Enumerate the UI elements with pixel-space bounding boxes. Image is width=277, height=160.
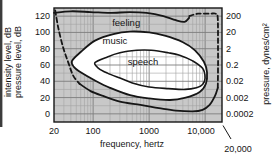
y-right-tick-0.02: 0.02 xyxy=(226,76,244,86)
annotation-pointer-line xyxy=(223,126,231,140)
y-axis-label-pressure-dynes: pressure, dynes/cm² xyxy=(261,23,271,105)
y-right-tick-0.002: 0.002 xyxy=(226,93,249,103)
audible-range-chart: feelingmusicspeech1201008060402002002020… xyxy=(0,0,277,160)
x-tick-20: 20 xyxy=(49,126,59,136)
region-label-feeling: feeling xyxy=(112,17,140,28)
x-tick-10,000: 10,000 xyxy=(187,126,215,136)
y-left-tick-120: 120 xyxy=(35,11,50,21)
y-axis-label-pressure-level: pressure level, dB xyxy=(13,26,23,98)
chart-canvas: feelingmusicspeech1201008060402002002020… xyxy=(0,0,277,160)
y-left-tick-80: 80 xyxy=(40,44,50,54)
x-axis-label: frequency, hertz xyxy=(100,139,164,149)
x-tick-1000: 1000 xyxy=(139,126,159,136)
region-label-speech: speech xyxy=(128,56,159,67)
y-right-tick-20: 20 xyxy=(226,27,236,37)
y-axis-label-intensity-level: intensity level, dB xyxy=(3,27,13,97)
x-tick-100: 100 xyxy=(86,126,101,136)
y-right-tick-0.0002: 0.0002 xyxy=(226,109,254,119)
y-right-tick-200: 200 xyxy=(226,11,241,21)
y-left-tick-60: 60 xyxy=(40,60,50,70)
y-left-tick-100: 100 xyxy=(35,27,50,37)
y-left-tick-0: 0 xyxy=(45,109,50,119)
y-left-tick-20: 20 xyxy=(40,93,50,103)
y-right-tick-2: 2 xyxy=(226,44,231,54)
y-left-tick-40: 40 xyxy=(40,76,50,86)
region-label-music: music xyxy=(102,35,127,46)
y-right-tick-0.2: 0.2 xyxy=(226,60,239,70)
x-axis-annotation-20000: 20,000 xyxy=(224,144,252,154)
